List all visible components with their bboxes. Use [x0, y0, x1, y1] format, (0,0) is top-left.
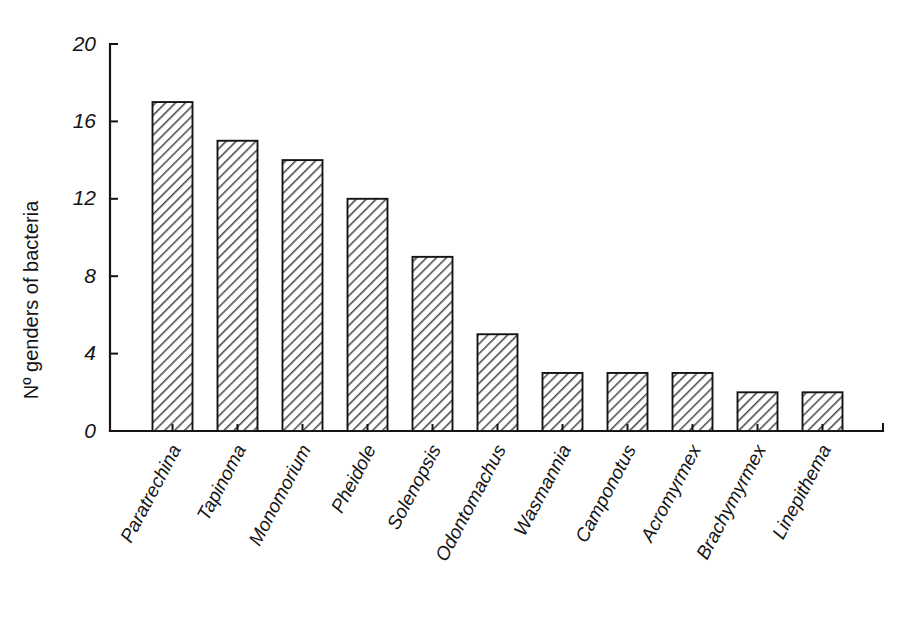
- y-tick-label: 20: [72, 32, 97, 55]
- y-tick-label: 16: [73, 109, 97, 132]
- bar: [478, 334, 518, 431]
- bar-chart-canvas: Nº genders of bacteria 048121620 Paratre…: [0, 0, 910, 617]
- y-tick-label: 8: [84, 264, 96, 287]
- y-axis-title: Nº genders of bacteria: [20, 200, 42, 399]
- chart-figure: Nº genders of bacteria 048121620 Paratre…: [0, 0, 910, 617]
- bar: [608, 373, 648, 431]
- bar: [153, 102, 193, 431]
- y-tick-label: 0: [84, 419, 96, 442]
- bar: [543, 373, 583, 431]
- bar: [283, 160, 323, 431]
- bar: [348, 199, 388, 431]
- bar: [218, 141, 258, 431]
- y-tick-label: 4: [84, 341, 96, 364]
- bar: [673, 373, 713, 431]
- bar: [413, 257, 453, 431]
- y-tick-label: 12: [73, 186, 97, 209]
